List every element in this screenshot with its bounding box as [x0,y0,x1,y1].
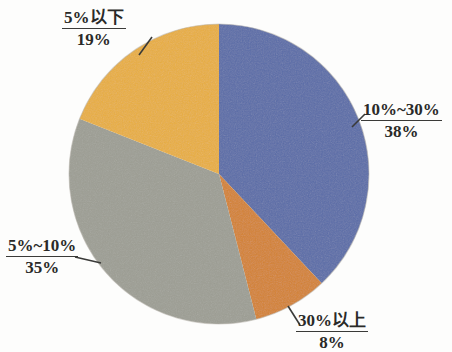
callout-label-30up: 30%以上 8% [296,311,368,352]
callout-category-10-30: 10%~30% [361,100,442,121]
callout-category-5-10: 5%~10% [6,236,78,257]
pie-chart-figure: 10%~30% 38% 30%以上 8% 5%~10% 35% 5%以下 19% [0,0,452,352]
callout-value-5down: 19% [62,29,126,49]
callout-category-5down: 5%以下 [62,8,126,29]
callout-category-30up: 30%以上 [296,311,368,332]
callout-value-10-30: 38% [361,121,442,141]
callout-value-30up: 8% [296,332,368,352]
callout-value-5-10: 35% [6,257,78,277]
pie-chart-graphic [0,0,452,352]
callout-label-5-10: 5%~10% 35% [6,236,78,278]
callout-label-10-30: 10%~30% 38% [361,100,442,142]
callout-label-5down: 5%以下 19% [62,8,126,50]
